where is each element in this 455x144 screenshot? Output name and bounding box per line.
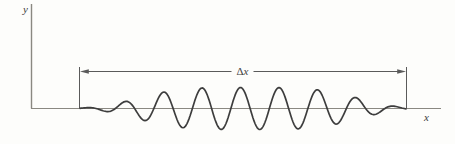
delta-symbol: Δ — [237, 65, 244, 77]
arrowhead-left-icon — [80, 69, 89, 74]
figure-canvas: y x Δx — [0, 0, 455, 144]
wave-packet-figure: y x Δx — [0, 0, 455, 144]
x-axis-label: x — [423, 111, 429, 123]
delta-x-label: Δx — [237, 65, 249, 77]
delta-x-variable: x — [243, 65, 249, 77]
y-axis-label: y — [22, 3, 28, 15]
arrowhead-right-icon — [397, 69, 406, 74]
